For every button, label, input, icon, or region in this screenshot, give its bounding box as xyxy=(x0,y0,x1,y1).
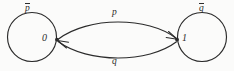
self-loop-label-p-bar: p xyxy=(25,3,30,14)
self-loop-label-p-bar-text: p xyxy=(25,3,30,14)
state-label-0: 0 xyxy=(42,33,47,43)
transition-arc-0-to-1 xyxy=(59,22,177,39)
transition-arc-1-to-0 xyxy=(58,42,176,59)
self-loop-label-q-bar: q xyxy=(199,3,204,14)
state-transition-diagram: 0 1 p q p q xyxy=(0,0,234,71)
self-loop-state-0 xyxy=(8,13,57,62)
state-label-1: 1 xyxy=(182,33,187,43)
self-loop-label-q-bar-text: q xyxy=(199,3,204,14)
transition-label-p: p xyxy=(112,8,117,18)
node-dot-state-0 xyxy=(55,38,59,42)
node-dot-state-1 xyxy=(175,38,179,42)
transition-label-q: q xyxy=(112,57,117,67)
